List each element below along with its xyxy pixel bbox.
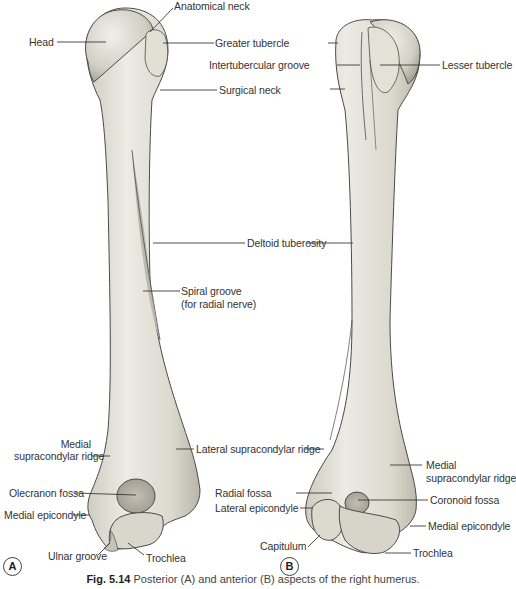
label-coronoid-fossa: Coronoid fossa: [430, 494, 499, 506]
label-medial-b-line1: Medial: [426, 459, 456, 471]
label-anatomical-neck: Anatomical neck: [174, 0, 250, 12]
label-lateral-epicondyle: Lateral epicondyle: [215, 502, 298, 514]
humerus-anterior: [306, 20, 420, 554]
label-olecranon-fossa: Olecranon fossa: [9, 487, 84, 499]
label-ulnar-groove: Ulnar groove: [48, 550, 107, 562]
label-spiral-groove: Spiral groove: [181, 285, 242, 297]
label-medial-supracondylar-ridge-a: supracondylar ridge: [14, 450, 104, 462]
label-lesser-tubercle: Lesser tubercle: [442, 59, 512, 71]
label-intertubercular-groove: Intertubercular groove: [209, 59, 310, 71]
humerus-posterior: [86, 8, 200, 551]
label-trochlea-b: Trochlea: [413, 547, 453, 559]
label-medial-epicondyle-a: Medial epicondyle: [4, 509, 86, 521]
label-medial-epicondyle-b: Medial epicondyle: [428, 520, 510, 532]
label-radial-fossa: Radial fossa: [215, 487, 272, 499]
figure-caption: Fig. 5.14 Posterior (A) and anterior (B)…: [0, 573, 506, 585]
label-medial-a-line1: Medial: [31, 438, 91, 450]
label-lateral-supracondylar-ridge: Lateral supracondylar ridge: [196, 443, 321, 455]
label-spiral-groove-note: (for radial nerve): [181, 298, 256, 310]
caption-number: Fig. 5.14: [86, 573, 130, 585]
label-capitulum: Capitulum: [260, 540, 306, 552]
label-surgical-neck: Surgical neck: [219, 84, 281, 96]
caption-text: Posterior (A) and anterior (B) aspects o…: [133, 573, 419, 585]
label-medial-supracondylar-ridge-b: supracondylar ridge: [426, 472, 516, 484]
label-head: Head: [29, 36, 54, 48]
label-deltoid-tuberosity: Deltoid tuberosity: [247, 237, 326, 249]
label-greater-tubercle: Greater tubercle: [215, 37, 289, 49]
label-trochlea-a: Trochlea: [146, 552, 186, 564]
